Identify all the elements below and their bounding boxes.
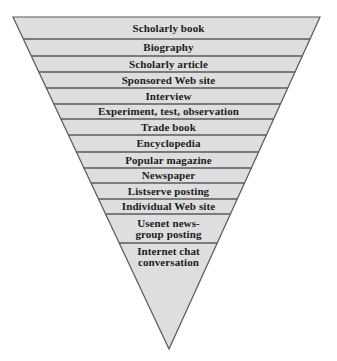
band-label: Sponsored Web site [0, 75, 337, 86]
band-label: Newspaper [0, 170, 337, 181]
band-label: Listserve posting [0, 186, 337, 197]
band-label: Internet chat conversation [0, 246, 337, 268]
band-label: Usenet news- group posting [0, 218, 337, 240]
band-label: Encyclopedia [0, 138, 337, 149]
inverted-pyramid-diagram: Scholarly bookBiographyScholarly article… [0, 0, 337, 361]
band-label: Trade book [0, 122, 337, 133]
band-label: Experiment, test, observation [0, 106, 337, 117]
band-label: Individual Web site [0, 201, 337, 212]
band-label: Popular magazine [0, 155, 337, 166]
band-label: Scholarly article [0, 59, 337, 70]
band-label: Biography [0, 42, 337, 53]
band-label: Interview [0, 91, 337, 102]
band-label: Scholarly book [0, 23, 337, 34]
